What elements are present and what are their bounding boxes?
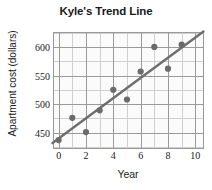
data-point	[165, 66, 171, 72]
x-tick-label: 4	[103, 150, 123, 161]
data-point	[179, 42, 185, 48]
data-point	[56, 137, 62, 143]
data-point	[151, 44, 157, 50]
x-tick-label: 6	[131, 150, 151, 161]
data-point	[138, 68, 144, 74]
chart-container: Kyle's Trend Line Apartment cost (dollar…	[0, 0, 212, 190]
x-tick-label: 10	[185, 150, 205, 161]
data-point	[124, 96, 130, 102]
x-tick-label: 0	[49, 150, 69, 161]
x-tick-label: 8	[158, 150, 178, 161]
data-point	[83, 129, 89, 135]
x-tick-label: 2	[76, 150, 96, 161]
plot-area	[0, 0, 212, 190]
data-point	[110, 87, 116, 93]
data-point	[69, 115, 75, 121]
data-point	[97, 107, 103, 113]
